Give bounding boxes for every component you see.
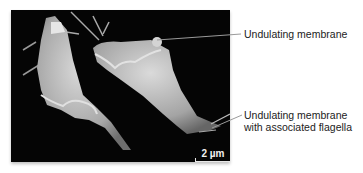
- scale-bar: 2 µm: [194, 148, 230, 162]
- label-undulating-membrane-flagella: Undulating membrane with associated flag…: [244, 109, 352, 133]
- label-undulating-membrane: Undulating membrane: [244, 28, 347, 40]
- scale-bar-line: [195, 161, 230, 162]
- micrograph-photo: 2 µm: [11, 10, 230, 162]
- label-line-1: Undulating membrane: [244, 109, 352, 121]
- left-cell: [23, 16, 131, 150]
- scale-bar-label: 2 µm: [194, 148, 230, 159]
- cells-illustration: [11, 10, 230, 162]
- scale-bar-tick-left: [195, 158, 196, 162]
- label-line-2: with associated flagella: [244, 121, 352, 133]
